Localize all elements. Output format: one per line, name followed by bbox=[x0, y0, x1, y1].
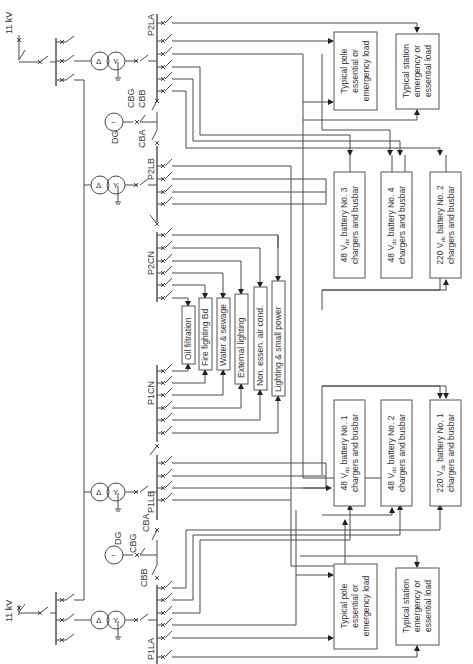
svg-text:~: ~ bbox=[111, 551, 116, 560]
svg-text:chargers and busbar: chargers and busbar bbox=[350, 414, 360, 492]
svg-text:essential load: essential load bbox=[423, 45, 433, 97]
breaker-group-bottom: CBA CBG ~ DG CBB bbox=[105, 513, 159, 587]
battery-220v-no1: 220 Vdc battery No. 1 bbox=[435, 413, 446, 493]
svg-text:chargers and busbar: chargers and busbar bbox=[397, 186, 407, 264]
busbar-p2cn: P2CN bbox=[146, 232, 157, 302]
svg-text:Typical station: Typical station bbox=[401, 44, 411, 98]
battery-48v-no1: 48 Vdc battery No. 1 bbox=[339, 415, 350, 490]
svg-text:chargers and busbar: chargers and busbar bbox=[446, 186, 456, 264]
svg-text:P1LB: P1LB bbox=[146, 491, 156, 513]
common-loads: Oil filtration Fire fighting Bd Water & … bbox=[182, 281, 285, 396]
svg-text:DG: DG bbox=[110, 131, 120, 145]
battery-220v-no2: 220 Vdc battery No. 2 bbox=[435, 185, 446, 265]
svg-text:emergency load: emergency load bbox=[361, 575, 371, 636]
svg-text:11 kV: 11 kV bbox=[4, 600, 14, 622]
delta-symbol: Δ bbox=[96, 57, 102, 66]
svg-text:chargers and busbar: chargers and busbar bbox=[350, 186, 360, 264]
svg-text:essential load: essential load bbox=[423, 580, 433, 632]
svg-text:Water & sewage: Water & sewage bbox=[218, 304, 228, 366]
battery-48v-no4: 48 Vdc battery No. 4 bbox=[386, 187, 397, 262]
svg-text:P2LB: P2LB bbox=[146, 158, 156, 180]
svg-text:P2LA: P2LA bbox=[146, 14, 156, 36]
svg-text:Δ: Δ bbox=[96, 181, 102, 190]
svg-text:Δ: Δ bbox=[96, 616, 102, 625]
busbar-p2lb: P2LB bbox=[146, 146, 157, 222]
svg-text:CBA: CBA bbox=[137, 129, 147, 148]
svg-text:P2CN: P2CN bbox=[146, 251, 156, 275]
busbar-p1la: P1LA bbox=[146, 585, 157, 664]
svg-text:CBG: CBG bbox=[126, 88, 136, 108]
svg-text:External lighting: External lighting bbox=[236, 317, 246, 378]
busbar-p1lb: P1LB bbox=[146, 455, 157, 520]
svg-text:chargers and busbar: chargers and busbar bbox=[446, 414, 456, 492]
svg-text:emergency or: emergency or bbox=[412, 580, 422, 632]
busbar-p1cn: P1CN bbox=[146, 365, 157, 442]
svg-text:essential or: essential or bbox=[350, 584, 360, 628]
svg-text:CBB: CBB bbox=[139, 568, 149, 587]
svg-text:CBG: CBG bbox=[128, 533, 138, 553]
svg-text:chargers and busbar: chargers and busbar bbox=[397, 414, 407, 492]
svg-text:Lighting & small power: Lighting & small power bbox=[273, 306, 283, 392]
busbar-p2la: P2LA bbox=[146, 14, 157, 101]
svg-text:Oil filtration: Oil filtration bbox=[183, 317, 193, 360]
svg-text:Typical pole: Typical pole bbox=[339, 583, 349, 628]
svg-text:Δ: Δ bbox=[96, 488, 102, 497]
svg-text:Fire fighting Bd: Fire fighting Bd bbox=[200, 309, 210, 366]
bottom-batteries: 48 Vdc battery No. 1 chargers and busbar… bbox=[303, 386, 461, 515]
svg-text:P1LA: P1LA bbox=[146, 638, 156, 660]
svg-text:P1CN: P1CN bbox=[146, 381, 156, 405]
transformer-top-2: Δ Y bbox=[84, 176, 157, 204]
bottom-essential-loads: Typical pole essential or emergency load… bbox=[296, 556, 439, 657]
svg-text:~: ~ bbox=[111, 118, 116, 127]
top-batteries: 48 Vdc battery No. 3 chargers and busbar… bbox=[322, 155, 461, 290]
breaker-group-top: CBB CBG ~ DG CBA bbox=[105, 88, 159, 148]
svg-text:CBA: CBA bbox=[141, 513, 151, 532]
supply-top-label: 11 kV bbox=[4, 12, 14, 34]
svg-text:Typical pole: Typical pole bbox=[339, 48, 349, 93]
top-essential-loads: Typical pole essential or emergency load… bbox=[303, 23, 439, 120]
svg-text:essential or: essential or bbox=[350, 49, 360, 93]
battery-48v-no2: 48 Vdc battery No. 2 bbox=[386, 415, 397, 490]
svg-text:Non. essen. air cond.: Non. essen. air cond. bbox=[255, 306, 265, 386]
svg-text:emergency load: emergency load bbox=[361, 40, 371, 101]
svg-text:DG: DG bbox=[113, 532, 123, 546]
svg-text:Typical station: Typical station bbox=[401, 579, 411, 633]
svg-text:emergency or: emergency or bbox=[412, 45, 422, 97]
single-line-diagram: 11 kV Δ Y P2LA CBB CBG ~ bbox=[0, 0, 473, 664]
svg-text:CBB: CBB bbox=[137, 89, 147, 108]
battery-48v-no3: 48 Vdc battery No. 3 bbox=[339, 187, 350, 262]
